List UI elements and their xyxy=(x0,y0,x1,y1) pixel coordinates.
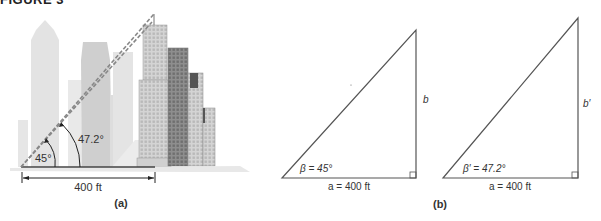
triangle-2-side-label: b′ xyxy=(583,98,592,109)
triangle-2-angle-label: β′ = 47.2° xyxy=(462,163,505,174)
distance-label: 400 ft xyxy=(74,181,102,193)
triangle-1-angle-label: β = 45° xyxy=(299,163,332,174)
triangle-2-base-label: a = 400 ft xyxy=(489,181,531,192)
panel-a-illustration: 45° 47.2° 400 ft (a) xyxy=(10,14,250,209)
angle-label-47: 47.2° xyxy=(78,133,104,145)
angle-label-45: 45° xyxy=(35,152,52,164)
triangle-1-side-label: b xyxy=(423,94,429,105)
caption-b: (b) xyxy=(433,198,447,210)
triangle-1: β = 45° a = 400 ft b xyxy=(282,30,429,192)
caption-a: (a) xyxy=(114,197,128,209)
triangle-1-base-label: a = 400 ft xyxy=(328,181,370,192)
triangle-2: β′ = 47.2° a = 400 ft b′ xyxy=(443,18,592,192)
right-angle-marker xyxy=(410,172,416,178)
figure-canvas: 45° 47.2° 400 ft (a) β = 45° a = 400 ft … xyxy=(0,0,601,221)
adjacent-buildings xyxy=(168,48,215,166)
skyscraper xyxy=(137,14,171,167)
right-angle-marker xyxy=(572,172,578,178)
